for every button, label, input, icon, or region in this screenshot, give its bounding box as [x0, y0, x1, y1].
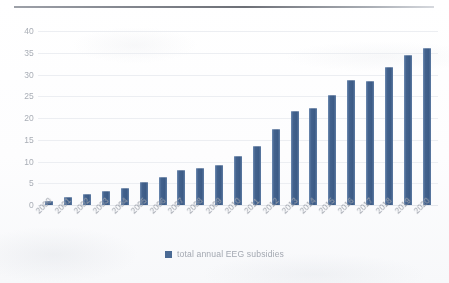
bar-series	[38, 31, 438, 205]
bar-slot	[59, 31, 78, 205]
bar-slot	[361, 31, 380, 205]
bar-slot	[398, 31, 417, 205]
y-axis: 4035302520151050	[6, 31, 34, 205]
bar-slot	[153, 31, 172, 205]
bar-slot	[191, 31, 210, 205]
bar-slot	[323, 31, 342, 205]
x-axis-slot: 2020	[417, 206, 436, 246]
bar-slot	[172, 31, 191, 205]
bar-slot	[134, 31, 153, 205]
bar-slot	[247, 31, 266, 205]
legend-label: total annual EEG subsidies	[177, 249, 284, 259]
y-axis-tick-30: 30	[8, 70, 34, 80]
bar-2015	[328, 95, 336, 205]
bar-2016	[347, 80, 355, 205]
y-axis-tick-35: 35	[8, 48, 34, 58]
bar-slot	[97, 31, 116, 205]
bar-slot	[342, 31, 361, 205]
bar-slot	[115, 31, 134, 205]
y-axis-tick-20: 20	[8, 113, 34, 123]
bar-slot	[304, 31, 323, 205]
bar-2014	[309, 108, 317, 205]
y-axis-tick-40: 40	[8, 26, 34, 36]
bar-2019	[404, 55, 412, 206]
y-axis-tick-10: 10	[8, 157, 34, 167]
y-axis-tick-5: 5	[8, 178, 34, 188]
bar-slot	[40, 31, 59, 205]
bar-2012	[272, 129, 280, 205]
bar-slot	[417, 31, 436, 205]
bar-2013	[291, 111, 299, 205]
bar-slot	[285, 31, 304, 205]
legend-swatch-icon	[165, 251, 172, 258]
bar-chart: 4035302520151050 20002001200220032004200…	[0, 0, 449, 283]
bar-2020	[423, 48, 431, 205]
bar-2018	[385, 67, 393, 205]
bar-slot	[210, 31, 229, 205]
bar-slot	[266, 31, 285, 205]
bar-2017	[366, 81, 374, 205]
bar-slot	[379, 31, 398, 205]
bar-slot	[229, 31, 248, 205]
y-axis-tick-15: 15	[8, 135, 34, 145]
y-axis-tick-0: 0	[8, 200, 34, 210]
bar-slot	[78, 31, 97, 205]
y-axis-tick-25: 25	[8, 91, 34, 101]
x-axis: 2000200120022003200420052006200720082009…	[38, 206, 438, 246]
chart-legend: total annual EEG subsidies	[0, 249, 449, 259]
plot-area	[38, 31, 438, 205]
